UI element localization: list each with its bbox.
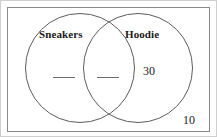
venn-diagram-figure: Sneakers Hoodie ___ ___ 30 10 (0, 0, 217, 137)
answer-blank-sneakers-only[interactable]: ___ (53, 69, 75, 78)
set-label-hoodie: Hoodie (125, 28, 159, 40)
region-value-sneakers-only: ___ (47, 65, 81, 80)
region-value-hoodie-only: 30 (134, 64, 164, 79)
region-value-intersection: ___ (94, 65, 122, 80)
answer-blank-intersection[interactable]: ___ (97, 69, 119, 78)
region-value-outside: 10 (177, 113, 201, 128)
set-label-sneakers: Sneakers (39, 28, 83, 40)
